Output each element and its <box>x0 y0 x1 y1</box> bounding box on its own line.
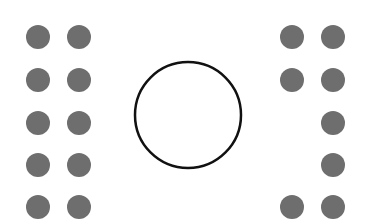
right-dot <box>321 68 345 92</box>
left-dot-grid <box>26 25 91 219</box>
right-dot-grid <box>280 25 345 219</box>
left-dot <box>67 25 91 49</box>
left-dot <box>67 68 91 92</box>
right-dot <box>321 25 345 49</box>
right-dot <box>321 111 345 135</box>
left-dot <box>26 25 50 49</box>
center-circle <box>135 62 241 168</box>
dot-pattern-canvas <box>0 0 370 222</box>
right-dot <box>321 153 345 177</box>
left-dot <box>67 153 91 177</box>
left-dot <box>67 111 91 135</box>
left-dot <box>26 111 50 135</box>
right-dot <box>280 25 304 49</box>
left-dot <box>67 195 91 219</box>
left-dot <box>26 68 50 92</box>
right-dot <box>280 68 304 92</box>
left-dot <box>26 153 50 177</box>
right-dot <box>280 195 304 219</box>
right-dot <box>321 195 345 219</box>
left-dot <box>26 195 50 219</box>
